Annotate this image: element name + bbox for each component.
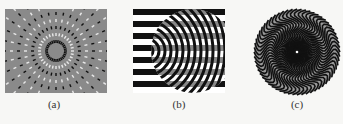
radial-dash xyxy=(64,53,67,54)
radial-dash xyxy=(38,54,41,55)
radial-dash xyxy=(54,40,55,43)
radial-dash xyxy=(50,20,51,23)
radial-dash xyxy=(98,42,101,43)
radial-dash xyxy=(59,33,60,36)
radial-dash xyxy=(105,61,107,62)
radial-dash xyxy=(5,61,7,62)
radial-dash xyxy=(45,49,48,50)
radial-dash xyxy=(54,59,55,62)
radial-dash xyxy=(91,43,94,44)
radial-dash xyxy=(50,79,51,82)
radial-dash xyxy=(84,45,87,46)
radial-dash xyxy=(98,59,101,60)
radial-dash xyxy=(52,33,53,36)
radial-dash xyxy=(71,47,74,48)
radial-dash xyxy=(25,57,28,58)
radial-dash xyxy=(48,86,49,89)
radial-pattern-image xyxy=(5,9,107,93)
caption-c: (c) xyxy=(277,98,317,110)
radial-dash xyxy=(78,46,81,47)
caption-a: (a) xyxy=(34,98,74,110)
figure-panel-a xyxy=(5,9,107,93)
radial-dash xyxy=(105,41,107,42)
radial-dash xyxy=(48,13,49,16)
wavy-circle-image xyxy=(253,8,341,96)
radial-dash xyxy=(58,40,59,43)
radial-dash xyxy=(58,59,59,62)
figure-panel-c xyxy=(253,8,341,96)
radial-dash xyxy=(78,55,81,56)
radial-dash xyxy=(51,73,52,76)
radial-dash xyxy=(52,66,53,69)
caption-b: (b) xyxy=(159,98,199,110)
radial-dash xyxy=(60,26,61,29)
radial-dash xyxy=(51,26,52,29)
radial-dash xyxy=(62,20,63,23)
radial-dash xyxy=(38,47,41,48)
figure-panel-b xyxy=(133,9,225,93)
radial-dash xyxy=(5,41,7,42)
radial-dash xyxy=(62,79,63,82)
radial-dash xyxy=(45,53,48,54)
radial-dash xyxy=(64,49,67,50)
radial-dash xyxy=(18,58,21,59)
radial-dash xyxy=(31,46,34,47)
striped-circle-image xyxy=(133,9,225,93)
radial-dash xyxy=(11,42,14,43)
radial-dash xyxy=(59,66,60,69)
radial-dash xyxy=(11,59,14,60)
radial-dash xyxy=(18,43,21,44)
radial-dash xyxy=(91,58,94,59)
radial-dash xyxy=(60,73,61,76)
radial-dash xyxy=(63,13,64,16)
radial-dash xyxy=(25,45,28,46)
radial-dash xyxy=(63,86,64,89)
radial-dash xyxy=(84,57,87,58)
radial-dash xyxy=(71,54,74,55)
radial-dash xyxy=(31,55,34,56)
center-highlight xyxy=(296,51,299,54)
